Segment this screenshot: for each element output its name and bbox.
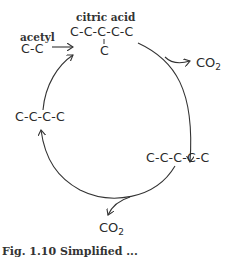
- co2-bottom-label: CO2: [99, 220, 124, 237]
- citric-to-c5-arrow: [138, 43, 191, 162]
- c5-chain: C-C-C-C-C: [146, 150, 209, 165]
- c4-chain: C-C-C-C: [15, 109, 65, 124]
- figure-caption: Fig. 1.10 Simplified ...: [2, 245, 138, 258]
- citric-acid-label: citric acid: [76, 11, 135, 23]
- co2-top-arrow: [165, 57, 190, 63]
- c4-to-citric-arrow: [43, 55, 73, 110]
- co2-top-label: CO2: [196, 55, 221, 72]
- co2-bottom-arrow: [108, 197, 130, 215]
- citric-acid-chain: C-C-C-C-C: [70, 24, 133, 39]
- citric-acid-branch: C: [100, 43, 109, 58]
- acetyl-chain: C-C: [21, 41, 44, 56]
